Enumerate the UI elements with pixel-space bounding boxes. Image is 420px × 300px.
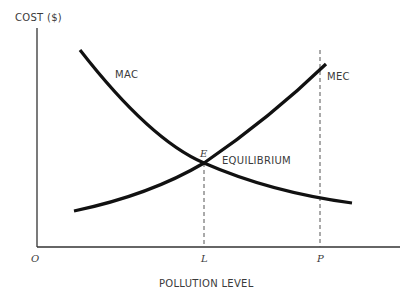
origin-label: O	[31, 253, 39, 264]
l-tick-label: L	[200, 253, 208, 264]
equilibrium-label: EQUILIBRIUM	[222, 155, 291, 166]
mac-label: MAC	[115, 69, 138, 80]
mec-label: MEC	[327, 71, 350, 82]
mac-mec-diagram: COST ($) MAC MEC E EQUILIBRIUM O L P POL…	[0, 0, 420, 300]
x-axis-label: POLLUTION LEVEL	[159, 278, 254, 289]
e-point-label: E	[199, 148, 208, 159]
y-axis-label: COST ($)	[15, 12, 62, 23]
p-tick-label: P	[316, 253, 324, 264]
